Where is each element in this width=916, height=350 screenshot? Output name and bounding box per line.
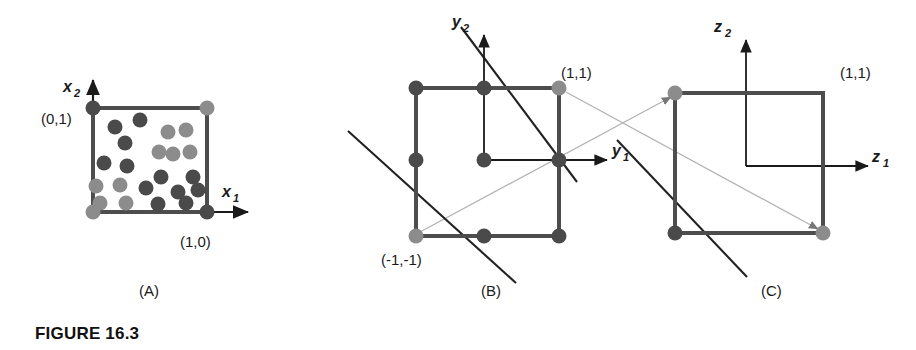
- panel-c-coord-label-1-1: (1,1): [840, 64, 871, 81]
- panel-c: z 2 z 1 (1,1) (C): [617, 18, 889, 299]
- panel-a-scatter-dots: [89, 113, 206, 212]
- panel-b-y-axis-label: y: [451, 13, 462, 30]
- panel-c-x-axis-label: z: [871, 148, 880, 165]
- figure-container: x 2 x 1 (0,1) (1,0) (A): [0, 0, 916, 350]
- panel-a-coord-label-0-1: (0,1): [41, 110, 72, 127]
- panel-b-letter: (B): [481, 282, 501, 299]
- panel-c-y-axis-subscript: 2: [724, 27, 731, 39]
- panel-b-separator-line-2: [348, 131, 516, 283]
- panel-a: x 2 x 1 (0,1) (1,0) (A): [41, 78, 248, 299]
- panel-c-y-axis-label: z: [713, 18, 722, 35]
- figure-svg: x 2 x 1 (0,1) (1,0) (A): [0, 0, 916, 350]
- panel-c-x-axis-subscript: 1: [883, 157, 889, 169]
- panel-a-x-axis-label: x: [221, 183, 232, 200]
- panel-a-y-axis-subscript: 2: [73, 87, 80, 99]
- panel-a-x-axis-subscript: 1: [233, 192, 239, 204]
- figure-caption: FIGURE 16.3: [35, 324, 139, 343]
- panel-a-coord-label-1-0: (1,0): [180, 233, 211, 250]
- panel-a-y-axis-label: x: [62, 78, 73, 95]
- panel-b: y 2 y 1 (1,1) (-1,-1) (B): [348, 13, 629, 299]
- connector-bottomleft-to-topleft: [420, 97, 671, 232]
- panel-a-letter: (A): [139, 282, 159, 299]
- panel-c-separator-line: [617, 140, 747, 277]
- panel-c-letter: (C): [761, 282, 782, 299]
- panel-b-dots: [409, 81, 567, 244]
- panel-b-coord-label-1-1: (1,1): [561, 64, 592, 81]
- panel-c-dots: [668, 86, 831, 241]
- panel-b-y-axis-subscript: 2: [462, 22, 469, 34]
- panel-b-coord-label-neg1-neg1: (-1,-1): [381, 251, 422, 268]
